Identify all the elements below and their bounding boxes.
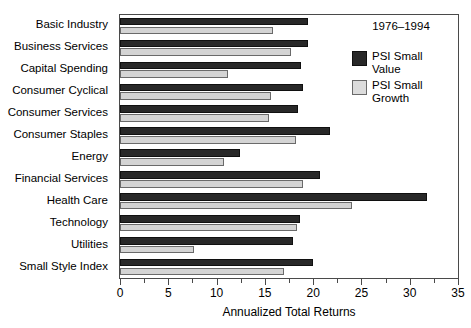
bar-growth [120,180,303,188]
x-tick-major [120,279,121,285]
bar-value [120,105,298,113]
x-tick-label: 5 [165,286,172,300]
legend-period: 1976–1994 [352,20,450,32]
category-label: Business Services [14,40,108,52]
category-label: Technology [50,216,108,228]
legend-swatch-icon [352,80,367,95]
x-tick-major [265,279,266,285]
bar-value [120,149,240,157]
bar-growth [120,27,273,35]
bar-growth [120,202,352,210]
bar-growth [120,158,224,166]
x-tick-label: 30 [403,286,416,300]
x-axis-ticks [119,279,459,285]
x-tick-major [458,279,459,285]
bar-value [120,62,301,70]
bar-chart: Basic IndustryBusiness ServicesCapital S… [0,0,471,328]
category-label: Health Care [47,194,108,206]
x-tick-label: 0 [117,286,124,300]
category-label: Utilities [71,238,108,250]
legend-label: PSI Small Growth [372,79,423,104]
x-tick-major [361,279,362,285]
legend-item: PSI Small Value [352,50,450,75]
legend-item: PSI Small Growth [352,79,450,104]
legend: 1976–1994 PSI Small ValuePSI Small Growt… [352,20,450,108]
x-tick-minor [386,279,387,283]
legend-entries: PSI Small ValuePSI Small Growth [352,50,450,104]
bar-value [120,171,320,179]
x-tick-label: 20 [306,286,319,300]
x-tick-label: 15 [258,286,271,300]
bar-growth [120,92,271,100]
category-label: Basic Industry [36,18,108,30]
category-label: Small Style Index [19,260,108,272]
bar-growth [120,268,284,276]
category-axis-labels: Basic IndustryBusiness ServicesCapital S… [0,14,113,279]
x-tick-minor [289,279,290,283]
legend-swatch-icon [352,51,367,66]
bar-growth [120,48,291,56]
category-label: Consumer Services [8,106,108,118]
x-tick-minor [192,279,193,283]
x-tick-major [168,279,169,285]
bar-growth [120,224,297,232]
x-tick-minor [241,279,242,283]
category-label: Consumer Staples [13,128,108,140]
x-tick-minor [337,279,338,283]
x-tick-label: 10 [210,286,223,300]
bar-value [120,127,330,135]
x-tick-minor [434,279,435,283]
x-tick-minor [144,279,145,283]
legend-label: PSI Small Value [372,50,423,75]
bar-value [120,193,427,201]
category-label: Energy [72,150,108,162]
bar-value [120,40,308,48]
x-tick-label: 35 [451,286,464,300]
x-tick-major [410,279,411,285]
bar-growth [120,70,228,78]
x-tick-major [217,279,218,285]
category-label: Capital Spending [20,62,108,74]
x-axis-title: Annualized Total Returns [119,305,459,319]
bar-value [120,84,303,92]
bar-growth [120,136,296,144]
bar-growth [120,246,194,254]
bar-growth [120,114,269,122]
bar-value [120,237,293,245]
x-axis-tick-labels: 05101520253035 [0,286,471,302]
bar-value [120,259,313,267]
bar-value [120,215,300,223]
x-tick-label: 25 [355,286,368,300]
bar-value [120,18,308,26]
x-tick-major [313,279,314,285]
category-label: Consumer Cyclical [12,84,108,96]
category-label: Financial Services [15,172,108,184]
